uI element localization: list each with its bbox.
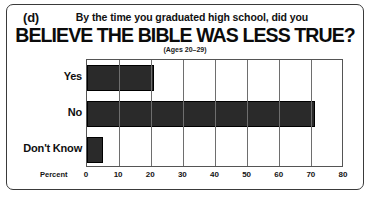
gridline-20 — [151, 60, 152, 166]
x-tick-label-40: 40 — [210, 170, 219, 179]
figure-panel: (d) By the time you graduated high schoo… — [0, 0, 372, 198]
gridline-60 — [279, 60, 280, 166]
x-tick-label-20: 20 — [146, 170, 155, 179]
x-axis-title: Percent — [40, 170, 68, 179]
bar-don-t-know — [87, 137, 103, 163]
chart-age-annotation: (Ages 20–29) — [7, 46, 363, 53]
chart-kicker-text: By the time you graduated high school, d… — [7, 11, 363, 23]
chart-title: BELIEVE THE BIBLE WAS LESS TRUE? — [7, 24, 363, 47]
gridline-10 — [119, 60, 120, 166]
x-tick-label-0: 0 — [84, 170, 88, 179]
figure-header: (d) By the time you graduated high schoo… — [7, 5, 363, 57]
x-tick-label-80: 80 — [339, 170, 348, 179]
x-tick-label-10: 10 — [114, 170, 123, 179]
category-label-no: No — [2, 106, 82, 118]
gridline-40 — [215, 60, 216, 166]
plot-area — [86, 59, 343, 167]
x-tick-label-30: 30 — [178, 170, 187, 179]
gridline-50 — [247, 60, 248, 166]
bar-no — [87, 101, 315, 127]
bar-yes — [87, 65, 154, 91]
x-tick-label-60: 60 — [274, 170, 283, 179]
category-axis-labels: YesNoDon't Know — [0, 59, 82, 167]
x-tick-label-70: 70 — [306, 170, 315, 179]
gridline-30 — [183, 60, 184, 166]
x-tick-label-50: 50 — [242, 170, 251, 179]
gridline-70 — [311, 60, 312, 166]
category-label-don-t-know: Don't Know — [2, 142, 82, 154]
category-label-yes: Yes — [2, 70, 82, 82]
